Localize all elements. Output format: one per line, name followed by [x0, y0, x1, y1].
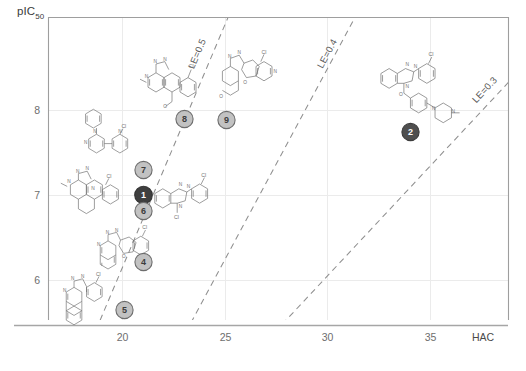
svg-text:N: N: [432, 106, 436, 111]
marker-label-9: 9: [224, 115, 229, 125]
marker-label-5: 5: [122, 305, 127, 315]
data-point-9[interactable]: 9: [218, 111, 235, 128]
svg-text:Cl: Cl: [428, 51, 433, 57]
svg-text:N: N: [76, 169, 80, 174]
svg-text:Cl: Cl: [106, 173, 111, 179]
svg-text:Cl: Cl: [201, 172, 206, 178]
svg-text:N: N: [179, 204, 183, 209]
svg-text:O: O: [163, 104, 167, 109]
x-tick-labels: 20 25 30 35: [117, 331, 437, 343]
x-tick-30: 30: [322, 331, 334, 343]
svg-text:O: O: [399, 92, 403, 97]
y-tick-7: 7: [34, 189, 40, 201]
svg-text:N: N: [67, 179, 71, 184]
svg-text:N: N: [145, 74, 149, 79]
marker-label-2: 2: [408, 127, 413, 137]
svg-text:N: N: [414, 64, 418, 69]
x-tick-20: 20: [117, 331, 129, 343]
marker-label-4: 4: [141, 257, 146, 267]
svg-text:N: N: [406, 84, 410, 89]
svg-text:N: N: [187, 184, 191, 189]
marker-label-1: 1: [141, 190, 146, 200]
svg-text:N: N: [406, 62, 410, 67]
plot-area-background: [48, 17, 508, 320]
svg-text:N: N: [71, 276, 74, 281]
svg-text:O: O: [243, 80, 247, 85]
svg-text:N: N: [93, 129, 96, 134]
y-axis-title: pIC50: [17, 5, 45, 21]
chart-figure: pIC50 8 7 6 20 25 30 35 HAC LE=0.5 LE=0.…: [0, 0, 526, 371]
data-point-8[interactable]: 8: [176, 110, 193, 127]
data-point-7[interactable]: 7: [135, 161, 152, 178]
data-point-2[interactable]: 2: [402, 123, 419, 140]
y-tick-8: 8: [34, 104, 40, 116]
svg-text:Cl: Cl: [189, 63, 194, 69]
svg-text:Cl: Cl: [142, 224, 147, 230]
y-tick-6: 6: [34, 274, 40, 286]
svg-text:Cl: Cl: [174, 214, 179, 220]
svg-text:N: N: [81, 274, 84, 279]
svg-text:O: O: [219, 94, 223, 99]
x-tick-25: 25: [220, 331, 232, 343]
svg-text:N: N: [451, 109, 455, 114]
svg-text:Cl: Cl: [96, 271, 101, 277]
scatter-plot-svg: pIC50 8 7 6 20 25 30 35 HAC LE=0.5 LE=0.…: [0, 0, 526, 371]
data-point-5[interactable]: 5: [116, 301, 133, 318]
marker-label-7: 7: [141, 165, 146, 175]
data-point-1[interactable]: 1: [135, 186, 153, 204]
svg-text:N: N: [118, 129, 121, 134]
svg-text:Cl: Cl: [262, 49, 267, 55]
svg-text:N: N: [97, 242, 100, 247]
svg-text:N: N: [179, 182, 183, 187]
marker-label-6: 6: [141, 206, 146, 216]
svg-text:N: N: [228, 54, 232, 59]
svg-text:N: N: [115, 228, 118, 233]
svg-text:N: N: [84, 140, 87, 145]
svg-text:O: O: [122, 254, 126, 259]
svg-text:N: N: [63, 288, 66, 293]
x-axis-title: HAC: [472, 331, 495, 343]
data-point-4[interactable]: 4: [135, 253, 152, 270]
y-tick-labels: 8 7 6: [34, 104, 40, 286]
svg-text:N: N: [154, 59, 158, 64]
svg-text:N: N: [274, 69, 278, 74]
x-tick-35: 35: [425, 331, 437, 343]
svg-text:N: N: [91, 186, 95, 191]
svg-text:N: N: [86, 166, 90, 171]
svg-text:N: N: [163, 57, 167, 62]
marker-label-8: 8: [182, 114, 187, 124]
svg-text:Cl: Cl: [121, 123, 126, 129]
svg-text:N: N: [238, 50, 242, 55]
svg-text:N: N: [106, 230, 109, 235]
data-point-6[interactable]: 6: [135, 202, 152, 219]
